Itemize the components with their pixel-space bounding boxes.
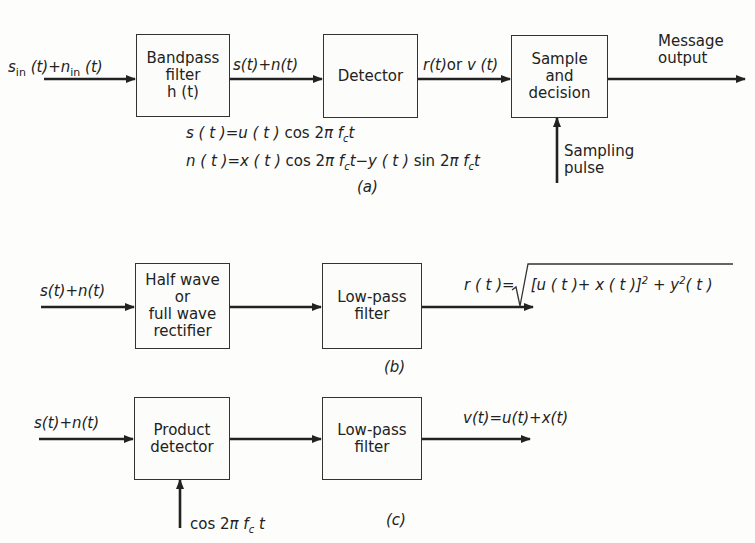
product-detector-block: Product detector [134, 397, 230, 480]
message-output-label: Message output [658, 33, 724, 67]
noise-equation: n ( t )=x ( t ) cos 2π fct−y ( t ) sin 2… [186, 152, 480, 172]
bandpass-output-label: s(t)+n(t) [233, 56, 298, 74]
coherent-output-equation: v(t)=u(t)+x(t) [463, 409, 568, 427]
caption-b: (b) [384, 358, 405, 376]
lowpass-filter-block: Low-pass filter [322, 397, 422, 480]
sample-decision-block: Sample and decision [511, 35, 608, 118]
caption-c: (c) [386, 511, 406, 529]
caption-a: (a) [357, 178, 378, 196]
envelope-output-equation: r ( t )=[u ( t )+ x ( t )]2 + y2( t ) [464, 275, 713, 294]
lowpass-filter-block: Low-pass filter [322, 263, 422, 349]
signal-equation: s ( t )=u ( t ) cos 2π fct [186, 124, 354, 144]
bandpass-filter-block: Bandpass filter h (t) [136, 34, 230, 117]
detector-output-label: r(t)or v (t) [423, 56, 498, 74]
input-signal-label: s(t)+n(t) [34, 414, 99, 432]
rectifier-block: Half wave or full wave rectifier [135, 263, 230, 349]
sampling-pulse-label: Sampling pulse [564, 143, 634, 177]
input-signal-label: s(t)+n(t) [40, 282, 105, 300]
detector-block: Detector [323, 34, 418, 118]
input-signal-label: sin (t)+nin (t) [8, 58, 103, 79]
local-oscillator-label: cos 2π fc t [190, 516, 265, 538]
